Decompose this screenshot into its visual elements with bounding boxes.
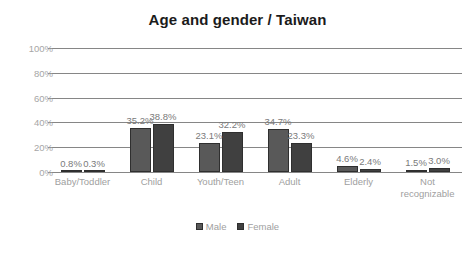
bars	[393, 48, 462, 172]
x-axis-tick: Elderly	[324, 176, 393, 200]
bars	[186, 48, 255, 172]
bar-group: 34.7%23.3%	[255, 48, 324, 172]
y-axis-tick: 80%	[13, 67, 53, 78]
data-label: 3.0%	[428, 155, 450, 166]
bar-male[interactable]	[337, 166, 358, 172]
bar-male[interactable]	[61, 170, 82, 172]
bars	[324, 48, 393, 172]
y-axis-tick: 40%	[13, 117, 53, 128]
y-axis-tick: 0%	[13, 167, 53, 178]
bar-female[interactable]	[153, 124, 174, 172]
y-axis-tick: 60%	[13, 92, 53, 103]
legend-item-male[interactable]: Male	[196, 221, 227, 232]
bar-male[interactable]	[199, 143, 220, 172]
gridline-0	[48, 172, 462, 173]
bars	[48, 48, 117, 172]
x-axis-labels: Baby/ToddlerChildYouth/TeenAdultElderlyN…	[48, 176, 462, 200]
bar-group: 4.6%2.4%	[324, 48, 393, 172]
bar-groups: 0.8%0.3%35.2%38.8%23.1%32.2%34.7%23.3%4.…	[48, 48, 462, 172]
bar-female[interactable]	[360, 169, 381, 172]
bar-female[interactable]	[84, 170, 105, 172]
data-label: 0.3%	[83, 158, 105, 169]
data-label: 0.8%	[60, 158, 82, 169]
bar-group: 0.8%0.3%	[48, 48, 117, 172]
data-label: 34.7%	[265, 116, 292, 127]
data-label: 2.4%	[359, 156, 381, 167]
data-label: 23.3%	[288, 130, 315, 141]
chart-container: Age and gender / Taiwan 100%80%60%40%20%…	[0, 0, 475, 256]
legend-item-female[interactable]: Female	[237, 221, 279, 232]
bar-group: 1.5%3.0%	[393, 48, 462, 172]
legend-label: Male	[206, 221, 227, 232]
x-axis-tick: Adult	[255, 176, 324, 200]
data-label: 1.5%	[405, 157, 427, 168]
chart-title: Age and gender / Taiwan	[0, 11, 475, 28]
data-label: 38.8%	[150, 111, 177, 122]
bar-female[interactable]	[429, 168, 450, 172]
legend-swatch-icon	[196, 223, 203, 230]
data-label: 4.6%	[336, 153, 358, 164]
legend-swatch-icon	[237, 223, 244, 230]
y-axis-tick: 20%	[13, 142, 53, 153]
data-label: 32.2%	[219, 119, 246, 130]
y-axis-tick: 100%	[13, 43, 53, 54]
legend-label: Female	[247, 221, 279, 232]
x-axis-tick: Child	[117, 176, 186, 200]
x-axis-tick: Not recognizable	[393, 176, 462, 200]
bar-male[interactable]	[406, 170, 427, 172]
data-label: 23.1%	[196, 130, 223, 141]
x-axis-tick: Youth/Teen	[186, 176, 255, 200]
chart-legend: MaleFemale	[0, 221, 475, 232]
bar-female[interactable]	[291, 143, 312, 172]
bar-male[interactable]	[268, 129, 289, 172]
bar-group: 35.2%38.8%	[117, 48, 186, 172]
bars	[255, 48, 324, 172]
x-axis-tick: Baby/Toddler	[48, 176, 117, 200]
bar-group: 23.1%32.2%	[186, 48, 255, 172]
bar-female[interactable]	[222, 132, 243, 172]
bar-male[interactable]	[130, 128, 151, 172]
